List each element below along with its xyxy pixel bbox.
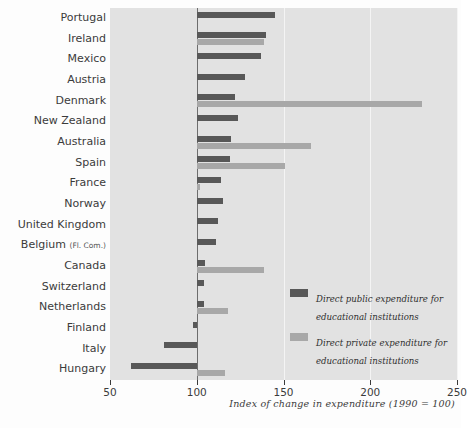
- category-label-denmark: Denmark: [55, 91, 106, 112]
- bar-row: [110, 173, 457, 194]
- bar-public: [193, 322, 196, 328]
- bar-public: [197, 32, 266, 38]
- bar-row: [110, 70, 457, 91]
- legend-item-private: Direct private expenditure for education…: [290, 332, 455, 368]
- chart-legend: Direct public expenditure for educationa…: [290, 288, 455, 376]
- bar-private: [197, 267, 265, 273]
- bar-private: [197, 184, 200, 190]
- bar-row: [110, 8, 457, 29]
- category-label-spain: Spain: [75, 153, 106, 174]
- legend-label-private: Direct private expenditure for education…: [316, 338, 447, 366]
- bar-public: [131, 363, 197, 369]
- legend-item-public: Direct public expenditure for educationa…: [290, 288, 455, 324]
- bar-private: [197, 370, 225, 376]
- bar-row: [110, 194, 457, 215]
- bar-public: [197, 177, 221, 183]
- bar-public: [197, 280, 204, 286]
- category-label-austria: Austria: [67, 70, 106, 91]
- bar-row: [110, 256, 457, 277]
- bar-public: [197, 260, 206, 266]
- axis-tick-label-50: 50: [103, 386, 116, 398]
- axis-tick-50: [110, 380, 111, 385]
- axis-tick-label-150: 150: [273, 386, 293, 398]
- category-label-norway: Norway: [64, 194, 106, 215]
- bar-private: [197, 163, 285, 169]
- bar-row: [110, 153, 457, 174]
- bar-public: [197, 74, 246, 80]
- bar-row: [110, 49, 457, 70]
- legend-swatch-public: [290, 289, 308, 297]
- bar-private: [197, 101, 423, 107]
- axis-tick-label-100: 100: [187, 386, 207, 398]
- category-label-italy: Italy: [82, 339, 106, 360]
- category-label-portugal: Portugal: [60, 8, 106, 29]
- bar-row: [110, 91, 457, 112]
- bar-row: [110, 215, 457, 236]
- bar-private: [197, 308, 228, 314]
- category-axis-labels: PortugalIrelandMexicoAustriaDenmarkNew Z…: [0, 8, 106, 380]
- axis-tick-150: [284, 380, 285, 385]
- legend-label-public: Direct public expenditure for educationa…: [316, 294, 443, 322]
- bar-public: [197, 12, 275, 18]
- category-label-ireland: Ireland: [68, 29, 106, 50]
- legend-swatch-private: [290, 333, 308, 341]
- category-label-belgium-fl-com: Belgium (Fl. Com.): [21, 235, 106, 256]
- bar-public: [197, 136, 232, 142]
- bar-row: [110, 235, 457, 256]
- bar-public: [197, 156, 230, 162]
- bar-public: [164, 342, 197, 348]
- category-label-finland: Finland: [67, 318, 106, 339]
- bar-private: [197, 39, 265, 45]
- category-label-new-zealand: New Zealand: [34, 111, 106, 132]
- axis-tick-200: [370, 380, 371, 385]
- bar-public: [197, 53, 261, 59]
- category-label-france: France: [69, 173, 106, 194]
- axis-tick-label-250: 250: [447, 386, 467, 398]
- category-label-mexico: Mexico: [68, 49, 106, 70]
- gridline-250: [457, 8, 458, 380]
- bar-row: [110, 111, 457, 132]
- axis-tick-label-200: 200: [360, 386, 380, 398]
- bar-row: [110, 132, 457, 153]
- category-label-netherlands: Netherlands: [39, 297, 106, 318]
- category-label-australia: Australia: [57, 132, 106, 153]
- bar-public: [197, 239, 216, 245]
- category-label-hungary: Hungary: [59, 359, 106, 380]
- bar-public: [197, 94, 235, 100]
- bar-row: [110, 29, 457, 50]
- axis-tick-250: [457, 380, 458, 385]
- bar-public: [197, 198, 223, 204]
- bar-private: [197, 143, 312, 149]
- value-axis-title: Index of change in expenditure (1990 = 1…: [229, 398, 455, 409]
- bar-public: [197, 301, 204, 307]
- bar-public: [197, 218, 218, 224]
- category-label-united-kingdom: United Kingdom: [18, 215, 106, 236]
- category-label-canada: Canada: [64, 256, 106, 277]
- bar-public: [197, 115, 239, 121]
- axis-tick-100: [197, 380, 198, 385]
- category-label-switzerland: Switzerland: [42, 277, 106, 298]
